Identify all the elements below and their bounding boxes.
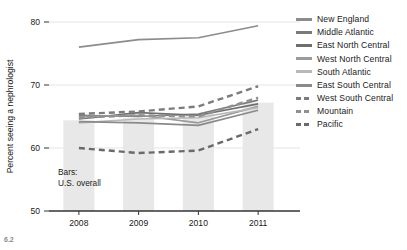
bars-annotation-line1: Bars: — [58, 167, 77, 178]
legend-line-swatch-icon — [296, 31, 312, 34]
legend-item-label: Middle Atlantic — [317, 28, 374, 37]
bar — [123, 118, 154, 211]
y-tick-label: 50 — [30, 206, 40, 216]
legend-item-label: East North Central — [317, 41, 390, 50]
x-tick-label: 2008 — [69, 218, 88, 228]
y-tick-label: 80 — [30, 17, 40, 27]
y-tick-label: 70 — [30, 80, 40, 90]
legend-item-label: South Atlantic — [317, 68, 371, 77]
legend-item[interactable]: Middle Atlantic — [296, 26, 407, 39]
legend-line-swatch-icon — [296, 123, 312, 126]
x-tick-label: 2009 — [129, 218, 148, 228]
legend-item-label: East South Central — [317, 81, 391, 90]
legend-item[interactable]: Pacific — [296, 118, 407, 131]
x-tick-label: 2010 — [189, 218, 208, 228]
legend-line-swatch-icon — [296, 97, 312, 100]
legend-item[interactable]: West North Central — [296, 52, 407, 65]
x-tick-label: 2011 — [249, 218, 268, 228]
legend-item[interactable]: Mountain — [296, 105, 407, 118]
figure-caption: 6.2 — [4, 236, 14, 243]
y-tick-label: 60 — [30, 143, 40, 153]
chart-legend: New EnglandMiddle AtlanticEast North Cen… — [296, 13, 407, 131]
bar — [243, 103, 274, 211]
legend-line-swatch-icon — [296, 18, 312, 21]
line-series — [79, 129, 258, 153]
figure-container: 50607080 2008200920102011 Percent seeing… — [0, 0, 407, 250]
x-tick-labels: 2008200920102011 — [69, 218, 267, 228]
bars-annotation-line2: U.S. overall — [58, 178, 101, 189]
legend-item[interactable]: West South Central — [296, 92, 407, 105]
y-axis-title: Percent seeing a nephrologist — [5, 59, 15, 173]
legend-item-label: Mountain — [317, 107, 353, 116]
line-series-group — [79, 26, 258, 153]
y-axis-title-text: Percent seeing a nephrologist — [5, 59, 15, 173]
legend-item[interactable]: New England — [296, 13, 407, 26]
legend-item-label: Pacific — [317, 120, 343, 129]
line-series — [79, 26, 258, 47]
legend-line-swatch-icon — [296, 84, 312, 87]
legend-line-swatch-icon — [296, 57, 312, 60]
legend-item-label: West South Central — [317, 94, 393, 103]
legend-line-swatch-icon — [296, 70, 312, 73]
y-tick-labels: 50607080 — [30, 17, 40, 216]
bar — [183, 114, 214, 211]
legend-item[interactable]: East North Central — [296, 39, 407, 52]
legend-item[interactable]: South Atlantic — [296, 65, 407, 78]
bar — [63, 120, 94, 211]
legend-line-swatch-icon — [296, 44, 312, 47]
legend-item-label: New England — [317, 15, 369, 24]
legend-line-swatch-icon — [296, 110, 312, 113]
legend-item-label: West North Central — [317, 55, 392, 64]
legend-item[interactable]: East South Central — [296, 78, 407, 91]
